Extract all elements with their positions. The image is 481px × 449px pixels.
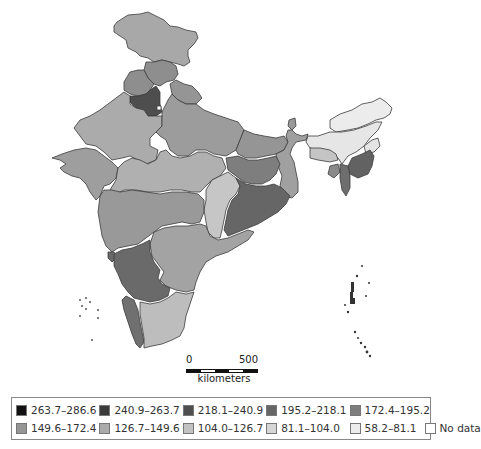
state-andhra-pradesh — [150, 224, 254, 292]
legend-swatch — [266, 405, 277, 416]
legend-item: 172.4–195.2 — [350, 404, 481, 416]
state-sikkim — [288, 118, 296, 130]
legend-swatch — [350, 405, 361, 416]
legend-item: 263.7–286.6 — [16, 404, 96, 416]
scale-unit-label: kilometers — [184, 373, 264, 384]
state-arunachal-pradesh — [330, 98, 392, 132]
legend-label: 81.1–104.0 — [281, 422, 340, 434]
scale-end-label: 500 — [239, 354, 258, 365]
andaman-nicobar-islands — [344, 265, 371, 357]
legend-label: 195.2–218.1 — [281, 404, 346, 416]
legend-swatch — [99, 405, 110, 416]
legend-swatch — [183, 405, 194, 416]
scale-bar: 0 500 kilometers — [186, 354, 258, 390]
legend-item: 81.1–104.0 — [266, 422, 346, 434]
legend-swatch — [350, 423, 361, 434]
scale-start-label: 0 — [186, 354, 192, 365]
legend-swatch — [16, 405, 27, 416]
state-uttar-pradesh — [156, 94, 244, 156]
legend-label: 149.6–172.4 — [31, 422, 96, 434]
legend-item: 104.0–126.7 — [183, 422, 263, 434]
state-delhi — [157, 106, 161, 110]
legend-label: 126.7–149.6 — [114, 422, 179, 434]
legend-swatch — [183, 423, 194, 434]
legend-label: 58.2–81.1 — [365, 422, 417, 434]
legend-item: 58.2–81.1No data — [350, 422, 481, 434]
india-choropleth-map — [0, 0, 445, 395]
legend-label: 172.4–195.2 — [365, 404, 430, 416]
legend: 263.7–286.6 240.9–263.7 218.1–240.9 195.… — [11, 397, 431, 440]
lakshadweep-islands — [79, 297, 99, 341]
legend-swatch-no-data — [425, 423, 436, 434]
legend-item: 126.7–149.6 — [99, 422, 179, 434]
legend-label: 104.0–126.7 — [198, 422, 263, 434]
legend-item: 195.2–218.1 — [266, 404, 346, 416]
legend-swatch — [99, 423, 110, 434]
legend-item: 218.1–240.9 — [183, 404, 263, 416]
legend-label-no-data: No data — [440, 422, 481, 434]
state-jammu-kashmir — [114, 12, 198, 66]
legend-item: 149.6–172.4 — [16, 422, 96, 434]
legend-label: 240.9–263.7 — [114, 404, 179, 416]
legend-label: 218.1–240.9 — [198, 404, 263, 416]
state-tripura — [328, 164, 340, 178]
legend-swatch — [16, 423, 27, 434]
legend-swatch — [266, 423, 277, 434]
legend-label: 263.7–286.6 — [31, 404, 96, 416]
state-mizoram — [340, 164, 350, 196]
legend-item: 240.9–263.7 — [99, 404, 179, 416]
